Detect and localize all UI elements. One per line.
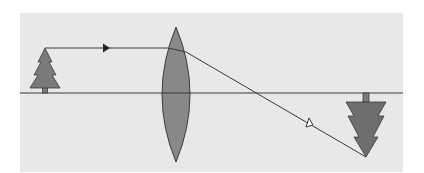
ray-diagram [0,0,424,173]
